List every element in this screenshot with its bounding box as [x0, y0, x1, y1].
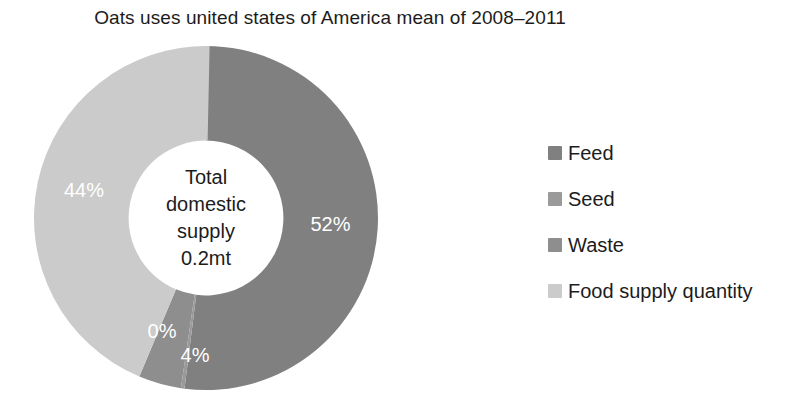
donut-chart: Oats uses united states of America mean …	[0, 0, 804, 406]
data-label-food-supply-quantity: 44%	[64, 179, 104, 201]
legend-label-feed: Feed	[568, 142, 614, 164]
data-label-waste: 4%	[181, 344, 210, 366]
legend-label-food-supply-quantity: Food supply quantity	[568, 280, 753, 302]
chart-legend: Feed Seed Waste Food supply quantity	[548, 130, 804, 314]
legend-item-food-supply-quantity[interactable]: Food supply quantity	[548, 268, 804, 314]
legend-swatch-icon-seed	[548, 192, 562, 206]
data-label-feed: 52%	[310, 213, 350, 235]
legend-item-feed[interactable]: Feed	[548, 130, 804, 176]
legend-swatch-icon-waste	[548, 238, 562, 252]
donut-svg: 52%0%4%44%	[32, 44, 380, 392]
donut-plot-area: 52%0%4%44%	[32, 44, 380, 392]
data-label-seed: 0%	[148, 320, 177, 342]
chart-title: Oats uses united states of America mean …	[0, 6, 660, 30]
legend-item-waste[interactable]: Waste	[548, 222, 804, 268]
legend-item-seed[interactable]: Seed	[548, 176, 804, 222]
legend-label-waste: Waste	[568, 234, 624, 256]
legend-swatch-icon-feed	[548, 146, 562, 160]
legend-label-seed: Seed	[568, 188, 615, 210]
legend-swatch-icon-food-supply-quantity	[548, 284, 562, 298]
